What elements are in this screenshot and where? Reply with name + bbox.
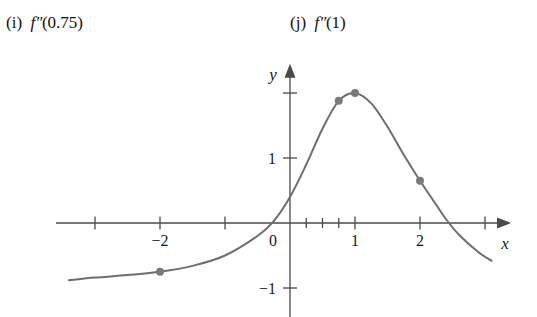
curve-layer bbox=[69, 93, 492, 280]
y-axis-arrow-icon bbox=[285, 64, 296, 78]
function-curve bbox=[69, 93, 492, 280]
double-prime-icon-i: ″ bbox=[35, 13, 42, 32]
problem-label-j: (j) f″(1) bbox=[290, 14, 346, 31]
x-axis-arrow-icon bbox=[497, 218, 511, 229]
marked-point bbox=[156, 268, 164, 276]
problem-label-i: (i) f″(0.75) bbox=[6, 14, 83, 31]
marked-point bbox=[351, 89, 359, 97]
function-plot: −20121−1xy bbox=[0, 40, 537, 317]
x-axis-tick-label: 1 bbox=[351, 232, 359, 249]
y-axis-label: y bbox=[267, 65, 277, 84]
x-axis-tick-label: 2 bbox=[416, 232, 424, 249]
double-prime-icon-j: ″ bbox=[319, 13, 326, 32]
function-argument-i: (0.75) bbox=[42, 13, 83, 32]
marked-point bbox=[335, 97, 343, 105]
figure-page: (i) f″(0.75) (j) f″(1) −20121−1xy bbox=[0, 0, 537, 317]
y-axis-tick-label: −1 bbox=[259, 280, 276, 297]
x-axis-label: x bbox=[500, 234, 509, 253]
marked-point bbox=[416, 177, 424, 185]
y-axis-tick-label: 1 bbox=[268, 150, 276, 167]
problem-enumerator-i: (i) bbox=[6, 13, 22, 32]
x-axis-tick-label: 0 bbox=[269, 232, 277, 249]
x-axis-tick-label: −2 bbox=[151, 232, 168, 249]
axis-layer bbox=[56, 64, 511, 317]
problem-enumerator-j: (j) bbox=[290, 13, 306, 32]
graph-figure: −20121−1xy bbox=[0, 40, 537, 317]
function-argument-j: (1) bbox=[326, 13, 346, 32]
